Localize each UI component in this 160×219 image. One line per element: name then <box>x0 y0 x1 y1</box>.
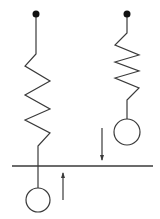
right-spring <box>115 14 139 119</box>
left-spring-system <box>25 11 50 213</box>
right-spring-system <box>114 11 140 146</box>
right-anchor-dot <box>124 11 131 18</box>
right-mass <box>114 119 140 145</box>
left-anchor-dot <box>33 11 40 18</box>
left-mass <box>26 188 50 212</box>
motion-arrows <box>61 128 104 200</box>
left-spring <box>25 14 50 188</box>
down-arrow-icon <box>100 128 104 161</box>
spring-mass-diagram <box>0 0 160 219</box>
up-arrow-icon <box>61 172 65 200</box>
